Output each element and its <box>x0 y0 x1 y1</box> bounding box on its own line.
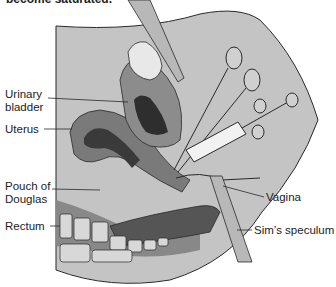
label-urinary-bladder: Urinary bladder <box>5 88 43 114</box>
label-vagina: Vagina <box>266 191 301 204</box>
label-pouch-of-douglas: Pouch of Douglas <box>5 180 50 206</box>
label-sims-speculum: Sim’s speculum <box>254 224 334 237</box>
label-rectum: Rectum <box>5 220 45 233</box>
pelvic-anatomy-illustration <box>0 0 336 287</box>
label-uterus: Uterus <box>5 123 39 136</box>
